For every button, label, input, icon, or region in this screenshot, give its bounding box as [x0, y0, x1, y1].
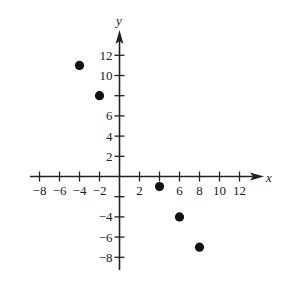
x-tick-label: 12 [233, 183, 246, 198]
y-tick-label: −4 [99, 209, 113, 224]
x-tick-label: −4 [73, 183, 87, 198]
y-tick-label: 12 [100, 48, 113, 63]
x-axis-label: x [265, 170, 272, 185]
y-tick-label: 6 [106, 108, 113, 123]
y-tick-label: 10 [100, 68, 113, 83]
x-tick-label: 6 [176, 183, 183, 198]
data-point [95, 91, 104, 100]
data-point [75, 61, 84, 70]
y-axis-label: y [114, 13, 122, 28]
scatter-plot: −8−6−4−226810121210642−4−6−8 x y [0, 0, 285, 283]
y-tick-label: −6 [99, 230, 113, 245]
y-tick-label: −8 [99, 250, 113, 265]
data-points [75, 61, 204, 252]
tick-labels: −8−6−4−226810121210642−4−6−8 [33, 48, 246, 265]
x-tick-label: −8 [33, 183, 47, 198]
data-point [155, 182, 164, 191]
x-tick-label: 2 [136, 183, 143, 198]
ticks [40, 55, 240, 257]
x-tick-label: 8 [196, 183, 203, 198]
x-tick-label: 10 [213, 183, 226, 198]
x-tick-label: −2 [93, 183, 107, 198]
y-tick-label: 4 [106, 129, 113, 144]
axes [30, 30, 264, 270]
x-tick-label: −6 [53, 183, 67, 198]
data-point [175, 212, 184, 221]
y-tick-label: 2 [106, 149, 113, 164]
data-point [195, 243, 204, 252]
